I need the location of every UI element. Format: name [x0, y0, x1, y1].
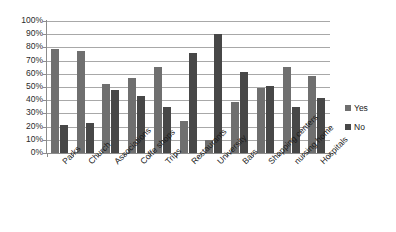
y-axis-tick-label: 60% [0, 69, 43, 78]
x-axis-tick-mark [47, 153, 48, 157]
y-axis-tick-label: 20% [0, 122, 43, 131]
y-axis-tick-label: 40% [0, 95, 43, 104]
bar-no [60, 125, 68, 153]
bar-yes [77, 51, 85, 153]
bars-layer [47, 21, 330, 153]
bar-group [98, 21, 124, 153]
bar-yes [51, 49, 59, 153]
y-axis-tick-label: 70% [0, 56, 43, 65]
bar-no [86, 123, 94, 153]
y-axis-tick-label: 10% [0, 135, 43, 144]
y-axis-tick-label: 50% [0, 82, 43, 91]
bar-no [266, 86, 274, 153]
bar-chart: 100%90%80%70%60%50%40%30%20%10%0% ParksC… [0, 0, 396, 232]
y-axis-tick-label: 100% [0, 16, 43, 25]
legend-swatch-icon [345, 105, 351, 111]
bar-group [73, 21, 99, 153]
bar-no [189, 53, 197, 153]
bar-group [253, 21, 279, 153]
legend-label: No [354, 122, 365, 132]
legend-label: Yes [354, 103, 368, 113]
legend-item[interactable]: Yes [345, 103, 368, 113]
bar-group [176, 21, 202, 153]
bar-yes [257, 88, 265, 153]
y-axis-tick-label: 0% [0, 148, 43, 157]
y-axis-tick-label: 90% [0, 29, 43, 38]
y-axis-tick-label: 80% [0, 42, 43, 51]
y-axis-tick-label: 30% [0, 108, 43, 117]
x-axis-line [46, 153, 331, 154]
chart-legend: YesNo [345, 103, 368, 141]
bar-group [47, 21, 73, 153]
legend-swatch-icon [345, 124, 351, 130]
bar-yes [180, 121, 188, 153]
bar-no [111, 90, 119, 153]
legend-item[interactable]: No [345, 122, 368, 132]
